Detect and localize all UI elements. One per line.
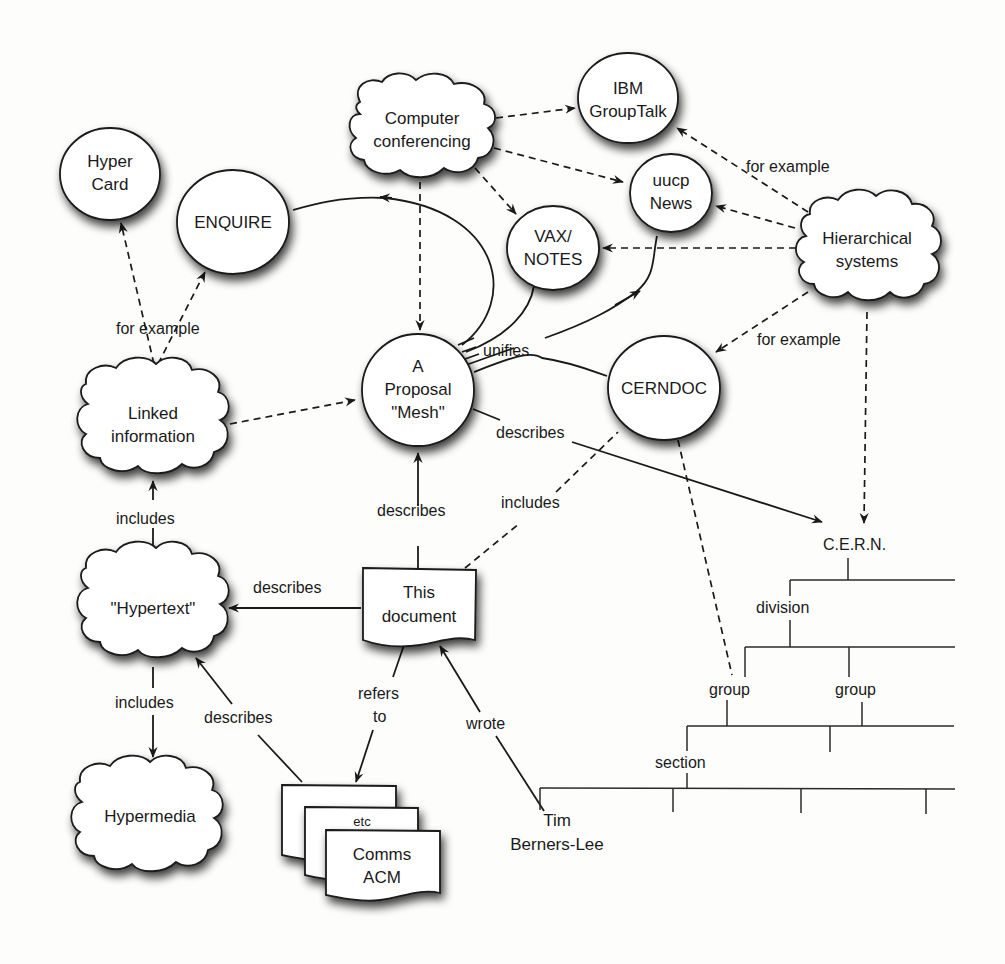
- tree-root-cern: C.E.R.N.: [823, 536, 886, 553]
- node-ibm-grouptalk[interactable]: IBM GroupTalk: [578, 53, 678, 143]
- this-document-label-1: This: [403, 583, 435, 602]
- label-includes-hypertext-hypermedia: includes: [115, 694, 174, 711]
- edge-mesh-cern-b: [572, 442, 822, 522]
- tree-section: section: [655, 754, 706, 771]
- node-comms-acm[interactable]: etc Comms ACM: [282, 785, 440, 901]
- edge-doc-cerndoc-a: [465, 523, 520, 568]
- conferencing-label-2: conferencing: [373, 132, 470, 151]
- label-describes-acm-hypertext: describes: [204, 709, 272, 726]
- edge-doc-cerndoc-b: [556, 432, 618, 492]
- edge-hierarchical-cern: [864, 312, 867, 523]
- stack-etc-label: etc: [353, 814, 371, 829]
- tree-group-2: group: [835, 681, 876, 698]
- edge-tim-doc-a: [440, 646, 480, 712]
- node-this-document[interactable]: This document: [363, 568, 476, 646]
- node-hypertext[interactable]: "Hypertext": [77, 542, 229, 658]
- edge-doc-acm-b: [356, 730, 373, 782]
- edge-acm-hypertext-a: [258, 735, 302, 782]
- org-tree: C.E.R.N. division group group section: [540, 536, 955, 814]
- edge-conferencing-grouptalk: [496, 108, 575, 118]
- label-describes-mesh-cern: describes: [496, 424, 564, 441]
- linked-label-2: information: [111, 427, 195, 446]
- mesh-label-1: A: [412, 357, 424, 376]
- node-enquire[interactable]: ENQUIRE: [177, 170, 289, 274]
- node-hierarchical-systems[interactable]: Hierarchical systems: [796, 190, 941, 301]
- tim-label-1: Tim: [543, 811, 571, 830]
- grouptalk-label-2: GroupTalk: [589, 102, 667, 121]
- hypercard-label-1: Hyper: [87, 152, 133, 171]
- tree-group-1: group: [709, 681, 750, 698]
- label-to: to: [373, 708, 386, 725]
- node-tim-berners-lee[interactable]: Tim Berners-Lee: [510, 811, 604, 854]
- label-for-example-top-right: for example: [746, 158, 830, 175]
- edge-doc-acm-a: [393, 645, 404, 677]
- vax-label-2: NOTES: [524, 250, 583, 269]
- comms-acm-label-2: ACM: [363, 868, 401, 887]
- edge-linked-hypercard: [121, 223, 154, 364]
- edge-mesh-uucp-arrowhead: [615, 291, 640, 305]
- node-hypercard[interactable]: Hyper Card: [60, 128, 160, 220]
- node-cerndoc[interactable]: CERNDOC: [608, 336, 720, 440]
- node-proposal-mesh[interactable]: A Proposal "Mesh": [362, 334, 474, 446]
- this-document-label-2: document: [382, 607, 457, 626]
- edge-acm-hypertext-b: [196, 658, 232, 704]
- edge-mesh-enquire: [293, 198, 494, 345]
- node-linked-information[interactable]: Linked information: [77, 358, 229, 474]
- hypertext-label: "Hypertext": [111, 599, 196, 618]
- node-vax-notes[interactable]: VAX/ NOTES: [507, 206, 599, 290]
- edge-conferencing-uucp: [494, 148, 623, 182]
- hierarchical-label-1: Hierarchical: [822, 229, 912, 248]
- tim-label-2: Berners-Lee: [510, 835, 604, 854]
- cerndoc-label: CERNDOC: [621, 379, 707, 398]
- comms-acm-label-1: Comms: [353, 845, 412, 864]
- label-describes-doc-hypertext: describes: [253, 579, 321, 596]
- mesh-diagram: C.E.R.N. division group group section Hy…: [0, 0, 1005, 964]
- node-computer-conferencing[interactable]: Computer conferencing: [350, 73, 495, 177]
- edge-mesh-cern-a: [473, 409, 500, 420]
- edge-cerndoc-tree: [678, 440, 732, 675]
- label-describes-doc-mesh: describes: [377, 502, 445, 519]
- edge-mesh-enquire-arrowhead: [380, 197, 392, 198]
- enquire-label: ENQUIRE: [194, 213, 271, 232]
- label-includes-hypertext-linked: includes: [116, 510, 175, 527]
- label-for-example-right: for example: [757, 331, 841, 348]
- hypermedia-label: Hypermedia: [104, 807, 196, 826]
- label-wrote: wrote: [465, 715, 505, 732]
- mesh-label-3: "Mesh": [391, 403, 445, 422]
- hierarchical-label-2: systems: [836, 252, 898, 271]
- label-for-example-left: for example: [116, 320, 200, 337]
- edge-hierarchical-uucp: [716, 206, 795, 228]
- conferencing-label-1: Computer: [385, 109, 460, 128]
- node-uucp-news[interactable]: uucp News: [630, 154, 712, 232]
- edge-tim-doc-b: [496, 736, 544, 811]
- tree-division: division: [756, 599, 809, 616]
- edge-conferencing-vax: [475, 168, 516, 214]
- grouptalk-label-1: IBM: [613, 79, 643, 98]
- uucp-label-2: News: [650, 194, 693, 213]
- linked-label-1: Linked: [128, 404, 178, 423]
- label-includes-doc-cerndoc: includes: [501, 494, 560, 511]
- edge-linked-mesh: [230, 400, 355, 424]
- vax-label-1: VAX/: [534, 227, 572, 246]
- mesh-label-2: Proposal: [384, 380, 451, 399]
- node-hypermedia[interactable]: Hypermedia: [71, 756, 223, 872]
- label-refers: refers: [358, 685, 399, 702]
- hypercard-label-2: Card: [92, 175, 129, 194]
- edge-linked-enquire: [158, 272, 205, 364]
- label-unifies: unifies: [483, 342, 529, 359]
- uucp-label-1: uucp: [653, 171, 690, 190]
